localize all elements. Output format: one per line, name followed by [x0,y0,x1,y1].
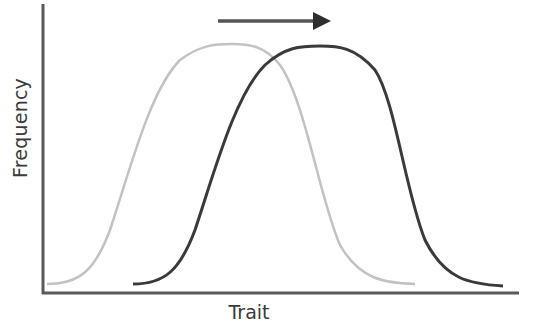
directional-selection-chart [0,0,533,327]
shift-arrow-icon [218,12,331,30]
y-axis-label: Frequency [9,78,31,178]
original-distribution-curve [47,44,415,284]
shifted-distribution-curve [133,46,503,286]
x-axis-label: Trait [229,301,270,323]
